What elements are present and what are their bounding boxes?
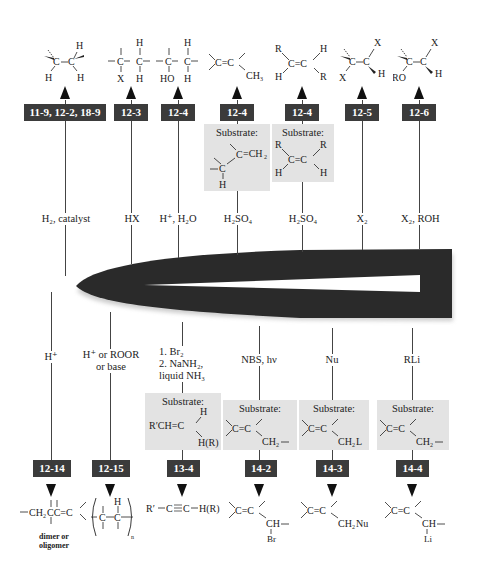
- connector-line: [178, 100, 179, 258]
- svg-text:CH: CH: [246, 70, 260, 81]
- product-structure-dihalide: C C X H X: [338, 34, 394, 84]
- svg-text:C: C: [349, 56, 356, 67]
- arrow-up-icon: [60, 86, 70, 99]
- svg-text:C=C: C=C: [288, 58, 307, 69]
- svg-text:2: 2: [264, 154, 267, 160]
- reagent-label: HX: [121, 213, 143, 225]
- reagent-label: H⁺: [42, 351, 60, 363]
- svg-text:HO: HO: [160, 73, 174, 84]
- substrate-box: Substrate: C=C CH2: [223, 400, 297, 450]
- svg-text:C=C: C=C: [235, 505, 254, 516]
- svg-text:Br: Br: [267, 534, 276, 542]
- section-label: 11-9, 12-2, 18-9: [24, 104, 106, 121]
- svg-text:=CH: =CH: [243, 148, 263, 159]
- reagent-label: Nu: [324, 354, 340, 366]
- svg-text:C: C: [166, 503, 173, 514]
- caption-line: oligomer: [32, 541, 76, 550]
- svg-text:C=C: C=C: [308, 423, 327, 434]
- svg-text:H: H: [76, 40, 83, 51]
- svg-text:CH: CH: [416, 436, 430, 447]
- svg-text:R: R: [320, 71, 327, 82]
- reagent-line: or base: [82, 361, 140, 373]
- product-structure-allylic-lithium: C=C CH Li: [382, 496, 454, 542]
- svg-text:H: H: [184, 37, 191, 48]
- svg-text:H: H: [219, 179, 226, 190]
- connector-line: [362, 100, 363, 250]
- substrate-title: Substrate:: [223, 403, 297, 414]
- substrate-structure: C=C CH2: [223, 414, 297, 450]
- svg-text:C: C: [114, 512, 121, 523]
- section-label: 12-5: [345, 104, 379, 121]
- reagent-label: X₂, ROH: [401, 213, 439, 225]
- substrate-structure: C=C CH2L: [299, 414, 369, 450]
- svg-text:X: X: [374, 37, 382, 48]
- caption-line: dimer or: [32, 532, 76, 541]
- svg-text:C=C: C=C: [386, 423, 405, 434]
- svg-text:H: H: [275, 71, 282, 82]
- product-structure-halo-ether: C C X H RO: [393, 34, 457, 84]
- svg-text:H: H: [77, 72, 84, 83]
- product-structure-polymer: C H C n: [88, 496, 138, 540]
- svg-text:C: C: [406, 56, 413, 67]
- svg-text:C: C: [183, 503, 190, 514]
- svg-text:Nu: Nu: [356, 518, 368, 529]
- reagent-label-multi: H⁺ or ROOR or base: [82, 349, 140, 373]
- reagent-line: 2. NaNH₂,: [159, 358, 209, 370]
- substrate-box: Substrate: H R′CH=C H(R): [145, 393, 221, 450]
- substrate-box: Substrate: R C=C R H H: [272, 124, 334, 182]
- product-structure-substitution: C=C CH2Nu: [298, 496, 374, 532]
- reagent-label-multi: 1. Br₂ 2. NaNH₂, liquid NH₃: [159, 346, 209, 382]
- product-structure-alkane: C C H H H: [38, 38, 94, 84]
- svg-text:C: C: [117, 56, 124, 67]
- product-structure-alkyne: R′ C C H(R): [144, 498, 228, 518]
- svg-text:H(R): H(R): [199, 503, 220, 515]
- svg-text:H: H: [114, 496, 121, 507]
- svg-text:2: 2: [430, 442, 433, 448]
- reagent-label: X₂: [354, 213, 370, 225]
- svg-text:X: X: [431, 37, 439, 48]
- section-label: 12-3: [114, 104, 148, 121]
- section-label: 12-4: [285, 104, 319, 121]
- svg-text:Li: Li: [424, 534, 432, 542]
- substrate-structure: R C=C R H H: [272, 138, 334, 182]
- svg-text:2: 2: [352, 442, 355, 448]
- connector-line: [110, 312, 111, 472]
- svg-text:R: R: [275, 139, 282, 150]
- reagent-line: H⁺ or ROOR: [82, 349, 140, 361]
- section-label: 12-15: [92, 460, 130, 477]
- svg-text:R: R: [275, 43, 282, 54]
- section-label: 14-3: [316, 460, 349, 477]
- arrow-up-icon: [173, 86, 183, 99]
- product-structure-alcohol: C H C HO H: [154, 36, 204, 86]
- section-label: 14-4: [396, 460, 429, 477]
- svg-text:H: H: [320, 43, 327, 54]
- svg-text:H: H: [320, 167, 327, 178]
- svg-text:H: H: [200, 406, 207, 417]
- svg-text:CH: CH: [338, 436, 352, 447]
- svg-text:H: H: [378, 68, 385, 79]
- svg-text:H(R): H(R): [198, 437, 219, 449]
- svg-text:CH: CH: [266, 518, 280, 529]
- svg-text:C: C: [99, 512, 106, 523]
- connector-line: [51, 292, 52, 472]
- svg-text:CC=C: CC=C: [47, 507, 73, 518]
- connector-line: [419, 100, 420, 249]
- section-label: 12-4: [220, 104, 254, 121]
- arrow-up-icon: [126, 86, 136, 99]
- svg-text:RO: RO: [393, 72, 406, 83]
- product-structure-trans-alkene: R C=C H H R: [272, 38, 336, 84]
- substrate-structure: C =CH2 C H: [204, 138, 270, 190]
- svg-text:C=C: C=C: [307, 505, 326, 516]
- svg-text:C=C: C=C: [232, 423, 251, 434]
- svg-text:CH: CH: [262, 436, 276, 447]
- svg-text:L: L: [356, 436, 362, 447]
- svg-text:3: 3: [260, 76, 263, 82]
- arrow-up-icon: [414, 86, 424, 99]
- svg-text:C: C: [184, 56, 191, 67]
- substrate-title: Substrate:: [204, 127, 270, 138]
- reagent-line: liquid NH₃: [159, 370, 209, 382]
- svg-text:C: C: [165, 56, 172, 67]
- connector-line: [259, 326, 260, 472]
- substrate-title: Substrate:: [272, 127, 334, 138]
- svg-text:CH: CH: [338, 518, 352, 529]
